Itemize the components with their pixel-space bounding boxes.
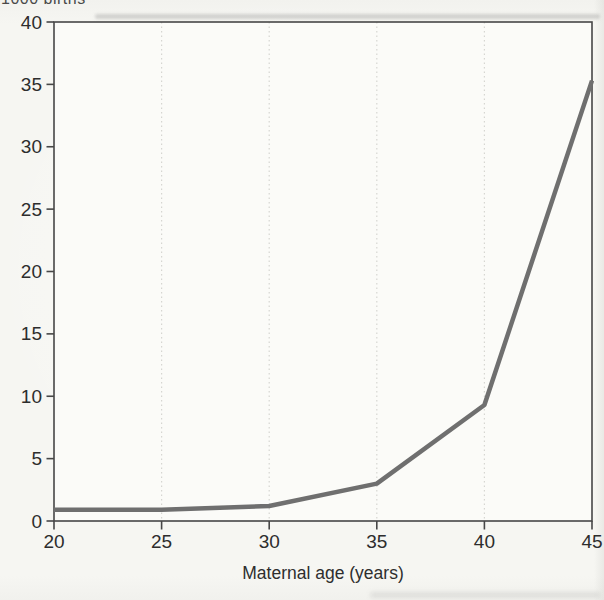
plot-area bbox=[54, 22, 592, 521]
y-tick-label: 20 bbox=[21, 261, 42, 282]
x-tick-label: 20 bbox=[43, 531, 64, 552]
y-tick-label: 30 bbox=[21, 136, 42, 157]
line-chart: 0510152025303540202530354045 bbox=[0, 0, 604, 600]
x-tick-label: 30 bbox=[259, 531, 280, 552]
y-tick-label: 25 bbox=[21, 199, 42, 220]
y-tick-label: 40 bbox=[21, 12, 42, 33]
x-tick-label: 40 bbox=[474, 531, 495, 552]
x-tick-label: 45 bbox=[581, 531, 602, 552]
y-tick-label: 5 bbox=[31, 448, 42, 469]
y-tick-label: 0 bbox=[31, 511, 42, 532]
x-axis-label: Maternal age (years) bbox=[54, 563, 592, 584]
y-tick-label: 15 bbox=[21, 323, 42, 344]
y-tick-label: 35 bbox=[21, 74, 42, 95]
x-tick-label: 25 bbox=[151, 531, 172, 552]
y-tick-label: 10 bbox=[21, 386, 42, 407]
x-tick-label: 35 bbox=[366, 531, 387, 552]
scanned-chart-page: 1000 births 0510152025303540202530354045… bbox=[0, 0, 604, 600]
